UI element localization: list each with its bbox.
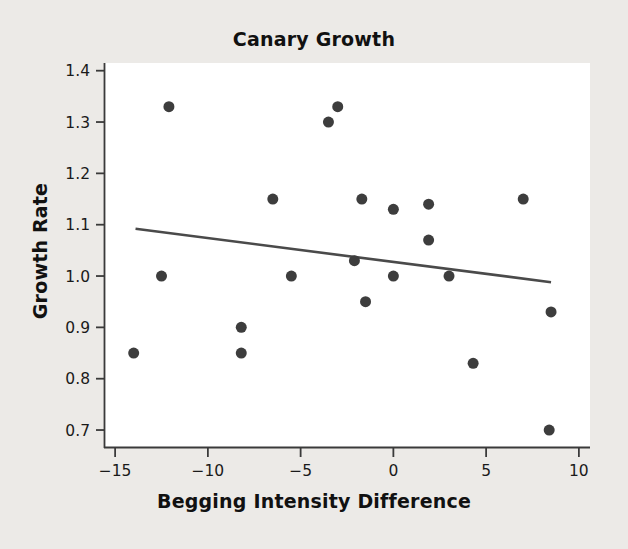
data-point [388, 204, 399, 215]
x-tick-label: −10 [192, 462, 225, 480]
y-tick-label: 1.3 [65, 114, 90, 132]
data-point [267, 194, 278, 205]
data-point [356, 194, 367, 205]
data-point [128, 348, 139, 359]
x-tick-label: 5 [481, 462, 491, 480]
data-point [236, 348, 247, 359]
data-point [468, 358, 479, 369]
data-point [546, 306, 557, 317]
data-point [444, 271, 455, 282]
y-tick-label: 1.4 [65, 62, 90, 80]
y-tick-label: 0.7 [65, 422, 90, 440]
y-tick-label: 0.9 [65, 319, 90, 337]
data-point [518, 194, 529, 205]
data-point [323, 117, 334, 128]
data-point [332, 101, 343, 112]
x-axis-ticks: −15−10−50510 [99, 448, 589, 480]
data-point [286, 271, 297, 282]
data-point [360, 296, 371, 307]
data-point [163, 101, 174, 112]
chart-figure: Canary Growth Growth Rate Begging Intens… [0, 0, 628, 549]
y-tick-label: 1.0 [65, 268, 90, 286]
data-point [544, 425, 555, 436]
data-point [388, 271, 399, 282]
x-tick-label: 10 [569, 462, 589, 480]
y-tick-label: 1.1 [65, 216, 90, 234]
y-tick-label: 1.2 [65, 165, 90, 183]
y-axis-ticks: 0.70.80.91.01.11.21.31.4 [65, 62, 104, 439]
scatter-plot: 0.70.80.91.01.11.21.31.4 −15−10−50510 [0, 0, 628, 549]
x-tick-label: −5 [289, 462, 312, 480]
data-point [423, 235, 434, 246]
data-point [349, 255, 360, 266]
x-tick-label: −15 [99, 462, 132, 480]
data-point [236, 322, 247, 333]
data-point [156, 271, 167, 282]
x-tick-label: 0 [388, 462, 398, 480]
data-point [423, 199, 434, 210]
y-tick-label: 0.8 [65, 370, 90, 388]
